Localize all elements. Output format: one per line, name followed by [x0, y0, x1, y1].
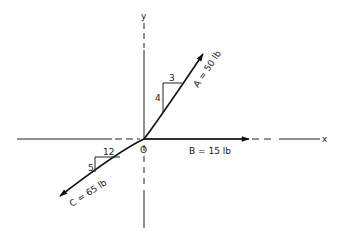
vector-c-run-label: 12 — [103, 147, 114, 157]
vector-c-rise-label: 5 — [88, 163, 94, 173]
vector-a-arrow — [144, 54, 203, 139]
vector-a: 4 3 A = 50 lb — [144, 49, 223, 139]
y-axis-label: y — [141, 11, 147, 21]
vector-c: 5 12 C = 65 lb — [60, 139, 144, 209]
vector-b: B = 15 lb — [144, 139, 249, 156]
origin-label: O — [140, 145, 147, 155]
x-axis-label: x — [322, 134, 328, 144]
y-axis: y — [141, 11, 147, 228]
vector-b-label: B = 15 lb — [189, 146, 231, 156]
vector-a-run-label: 3 — [169, 73, 175, 83]
vector-c-label: C = 65 lb — [68, 177, 109, 208]
vector-c-slope-triangle — [95, 157, 120, 172]
vector-a-label: A = 50 lb — [191, 49, 223, 90]
force-vector-diagram: x y O 4 3 A = 50 lb B = 15 lb 5 12 C = 6… — [0, 0, 337, 239]
vector-a-rise-label: 4 — [155, 93, 161, 103]
